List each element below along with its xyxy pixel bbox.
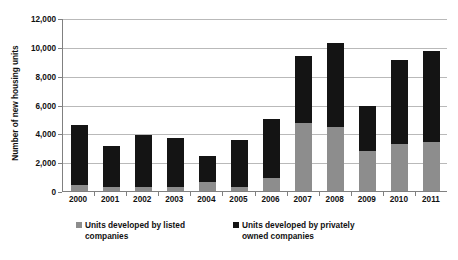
y-tick-label: 0: [0, 188, 56, 197]
legend-label: Units developed by listed companies: [85, 220, 205, 241]
bar-column: [199, 156, 216, 191]
bar-column: [231, 140, 248, 191]
bar-segment-listed: [391, 144, 408, 191]
bar-segment-listed: [135, 187, 152, 191]
x-tick-mark: [383, 192, 384, 196]
bar-column: [167, 138, 184, 191]
bar-segment-private: [391, 60, 408, 144]
bar-segment-private: [71, 125, 88, 185]
x-tick-mark: [287, 192, 288, 196]
y-tick-label: 6,000: [0, 101, 56, 110]
bar-column: [71, 125, 88, 191]
bar-column: [327, 43, 344, 191]
bar-segment-listed: [103, 187, 120, 191]
x-tick-label: 2011: [422, 195, 440, 204]
x-tick-label: 2007: [294, 195, 312, 204]
bar-segment-private: [199, 156, 216, 183]
x-tick-mark: [126, 192, 127, 196]
x-tick-label: 2006: [261, 195, 279, 204]
bar-segment-listed: [423, 142, 440, 191]
x-tick-label: 2004: [197, 195, 215, 204]
bar-segment-listed: [199, 182, 216, 191]
bar-series-group: [63, 19, 447, 191]
bar-segment-private: [423, 51, 440, 142]
bar-segment-listed: [263, 178, 280, 191]
legend-entry: Units developed by privately owned compa…: [233, 220, 382, 241]
bar-column: [359, 106, 376, 191]
x-tick-mark: [158, 192, 159, 196]
x-tick-label: 2005: [229, 195, 247, 204]
bar-segment-listed: [231, 187, 248, 191]
y-tick-label: 4,000: [0, 130, 56, 139]
x-tick-mark: [190, 192, 191, 196]
bar-segment-private: [295, 56, 312, 124]
y-tick-label: 8,000: [0, 72, 56, 81]
legend-label: Units developed by privately owned compa…: [242, 220, 382, 241]
bar-column: [423, 51, 440, 191]
x-tick-mark: [94, 192, 95, 196]
bar-segment-private: [103, 146, 120, 186]
x-tick-mark: [222, 192, 223, 196]
y-tick-label: 12,000: [0, 15, 56, 24]
x-tick-label: 2003: [165, 195, 183, 204]
legend-entry: Units developed by listed companies: [76, 220, 205, 241]
bar-segment-private: [327, 43, 344, 127]
bar-segment-listed: [167, 187, 184, 191]
bar-segment-private: [263, 119, 280, 178]
y-axis-title: Number of new housing units: [10, 13, 20, 193]
legend-swatch-listed: [76, 222, 82, 228]
y-tick-mark: [58, 192, 62, 193]
y-tick-label: 2,000: [0, 159, 56, 168]
bar-segment-private: [135, 135, 152, 187]
x-tick-label: 2010: [390, 195, 408, 204]
bar-segment-private: [359, 106, 376, 151]
bar-segment-private: [231, 140, 248, 187]
x-tick-label: 2008: [326, 195, 344, 204]
x-tick-label: 2000: [69, 195, 87, 204]
x-tick-label: 2002: [133, 195, 151, 204]
bar-column: [263, 119, 280, 191]
bar-column: [135, 135, 152, 191]
housing-units-stacked-bar-chart: Number of new housing units 02,0004,0006…: [0, 0, 458, 260]
bar-segment-private: [167, 138, 184, 187]
bar-column: [391, 60, 408, 191]
legend-swatch-private: [233, 222, 239, 228]
x-tick-label: 2001: [101, 195, 119, 204]
bar-column: [103, 146, 120, 191]
x-tick-mark: [415, 192, 416, 196]
x-tick-mark: [319, 192, 320, 196]
x-tick-mark: [351, 192, 352, 196]
bar-column: [295, 56, 312, 192]
chart-legend: Units developed by listed companiesUnits…: [0, 220, 458, 241]
bar-segment-listed: [359, 151, 376, 191]
y-tick-label: 10,000: [0, 43, 56, 52]
bar-segment-listed: [295, 123, 312, 191]
plot-area: [62, 19, 447, 192]
bar-segment-listed: [71, 185, 88, 191]
x-tick-mark: [255, 192, 256, 196]
bar-segment-listed: [327, 127, 344, 191]
x-tick-label: 2009: [358, 195, 376, 204]
